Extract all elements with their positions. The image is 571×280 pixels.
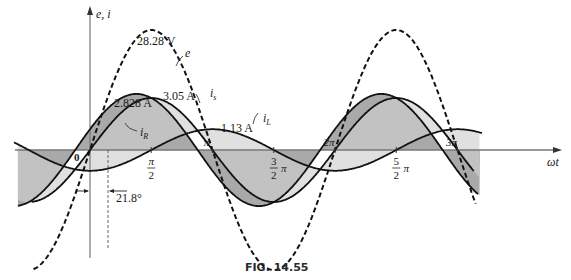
e-name-label: e [185, 46, 191, 60]
arrow-right-icon [84, 189, 89, 193]
arrow-left-icon [109, 189, 114, 193]
origin-label: 0 [74, 151, 80, 163]
x-tick-label: π [204, 136, 210, 148]
e-peak-label: 28.28 V [137, 34, 176, 48]
is-name-label: is [210, 86, 216, 102]
iL-peak-label: 1.13 A [221, 121, 253, 135]
x-axis-arrow-icon [553, 147, 562, 153]
y-axis-label: e, i [96, 7, 111, 21]
x-tick-label: 2 [271, 169, 277, 181]
is-peak-label: 3.05 A [163, 89, 195, 103]
figure-caption: FIG. 14.55 [245, 261, 308, 274]
y-axis-arrow-icon [87, 6, 93, 15]
phase-angle-label: 21.8° [116, 191, 142, 205]
x-axis-label: ωt [547, 155, 559, 169]
x-tick-label: π [148, 155, 154, 167]
x-tick-label: 2π [323, 136, 335, 148]
iL-name-label: iL [263, 111, 271, 127]
x-tick-label: π [403, 162, 409, 174]
waveform-plot: π2π32π2π52π3π e, i ωt 0 28.28 V e 2.828 … [0, 0, 571, 280]
x-tick-label: 2 [149, 169, 155, 181]
x-tick-label: 5 [394, 155, 400, 167]
x-tick-label: 2 [394, 169, 400, 181]
x-tick-label: 3π [445, 136, 458, 148]
x-tick-label: π [281, 162, 287, 174]
iL-leader [253, 113, 258, 124]
iR-peak-label: 2.828 A [114, 96, 152, 110]
x-tick-label: 3 [271, 155, 277, 167]
